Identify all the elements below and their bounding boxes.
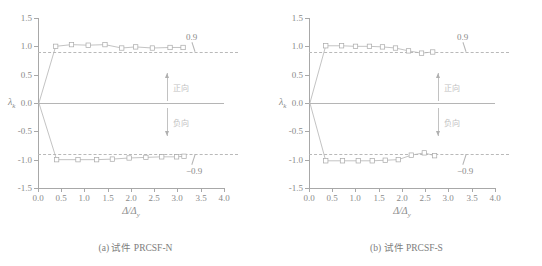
x-tick-a-5 — [154, 188, 155, 192]
panel-caption-a: (a) 试件 PRCSF-N — [0, 240, 271, 254]
data-point-marker — [383, 158, 387, 162]
annotation-label-positive-b: 正向 — [444, 82, 460, 93]
annotation-label-negative-b: 负向 — [444, 117, 460, 128]
y-tick-label-a-0: 1.5 — [21, 14, 32, 23]
data-point-marker — [86, 43, 90, 47]
data-point-marker — [144, 155, 148, 159]
x-tick-b-2 — [355, 188, 356, 192]
x-tick-b-3 — [379, 188, 380, 192]
data-point-marker — [432, 154, 436, 158]
x-tick-label-a-3: 1.5 — [102, 194, 113, 203]
x-tick-a-4 — [131, 188, 132, 192]
x-tick-b-4 — [402, 188, 403, 192]
x-tick-label-a-1: 0.5 — [55, 194, 66, 203]
x-tick-label-b-8: 4.0 — [489, 194, 500, 203]
x-tick-a-6 — [177, 188, 178, 192]
data-point-marker — [182, 154, 186, 158]
data-point-marker — [409, 153, 413, 157]
x-tick-b-5 — [425, 188, 426, 192]
y-axis-title-b: λk — [279, 96, 286, 110]
x-tick-a-0 — [38, 188, 39, 192]
y-tick-label-a-2: 0.5 — [21, 71, 32, 80]
data-point-marker — [380, 45, 384, 49]
panel-b: 1.5 1.0 0.5 0.0 -0.5 -1.0 -1.5 0.0 0.5 1… — [271, 0, 542, 266]
x-tick-a-2 — [84, 188, 85, 192]
annotation-positive-direction-a: 正向 — [164, 73, 189, 101]
x-tick-label-a-4: 2.0 — [125, 194, 136, 203]
panel-a: 1.5 1.0 0.5 0.0 -0.5 -1.0 -1.5 0.0 0.5 1… — [0, 0, 271, 266]
x-tick-label-b-6: 3.0 — [442, 194, 453, 203]
x-tick-a-7 — [201, 188, 202, 192]
data-point-marker — [54, 157, 58, 161]
data-point-marker — [339, 44, 343, 48]
data-point-marker — [120, 46, 124, 50]
data-point-marker — [406, 49, 410, 53]
ref-label-positive-b: 0.9 — [457, 32, 468, 42]
x-tick-label-a-5: 2.5 — [148, 194, 159, 203]
ref-label-negative-a: −0.9 — [186, 166, 202, 176]
data-point-marker — [174, 155, 178, 159]
annotation-label-positive-a: 正向 — [173, 82, 189, 93]
series-canvas-b — [309, 18, 509, 188]
y-tick-label-b-4: -0.5 — [289, 127, 303, 136]
x-tick-a-8 — [224, 188, 225, 192]
ref-label-negative-b: −0.9 — [457, 166, 473, 176]
data-point-marker — [110, 157, 114, 161]
data-point-marker — [324, 44, 328, 48]
annotation-negative-direction-b: 负向 — [435, 108, 460, 136]
annotation-negative-direction-a: 负向 — [164, 108, 189, 136]
data-point-marker — [430, 50, 434, 54]
y-tick-label-b-5: -1.0 — [289, 156, 303, 165]
data-point-marker — [150, 46, 154, 50]
x-tick-label-a-7: 3.5 — [195, 194, 206, 203]
data-point-marker — [133, 45, 137, 49]
x-tick-b-0 — [309, 188, 310, 192]
y-tick-label-b-2: 0.5 — [292, 71, 303, 80]
x-tick-label-a-0: 0.0 — [32, 194, 43, 203]
data-point-marker — [159, 155, 163, 159]
y-tick-label-b-0: 1.5 — [292, 14, 303, 23]
x-tick-b-1 — [332, 188, 333, 192]
data-point-marker — [340, 159, 344, 163]
x-tick-b-6 — [448, 188, 449, 192]
x-tick-a-1 — [61, 188, 62, 192]
x-tick-label-b-7: 3.5 — [466, 194, 477, 203]
y-tick-label-a-5: -1.0 — [18, 156, 32, 165]
x-tick-label-b-1: 0.5 — [326, 194, 337, 203]
series-line-negative — [310, 103, 435, 161]
x-tick-label-b-3: 1.5 — [373, 194, 384, 203]
y-tick-label-a-6: -1.5 — [18, 184, 32, 193]
ref-label-positive-a: 0.9 — [186, 32, 197, 42]
data-point-marker — [181, 45, 185, 49]
y-tick-label-b-3: 0.0 — [292, 99, 303, 108]
series-canvas-a — [38, 18, 238, 188]
data-point-marker — [393, 46, 397, 50]
data-point-marker — [356, 159, 360, 163]
y-tick-label-a-1: 1.0 — [21, 42, 32, 51]
x-tick-label-a-8: 4.0 — [218, 194, 229, 203]
series-line-positive — [39, 45, 183, 103]
data-point-marker — [69, 42, 73, 46]
data-point-marker — [396, 157, 400, 161]
x-tick-b-7 — [472, 188, 473, 192]
x-tick-a-3 — [108, 188, 109, 192]
data-point-marker — [324, 159, 328, 163]
y-tick-label-a-3: 0.0 — [21, 99, 32, 108]
data-point-marker — [127, 156, 131, 160]
series-line-positive — [310, 46, 433, 103]
x-axis-title-a: Δ/Δy — [122, 205, 140, 219]
x-tick-label-a-6: 3.0 — [171, 194, 182, 203]
x-tick-label-b-0: 0.0 — [303, 194, 314, 203]
y-tick-label-b-1: 1.0 — [292, 42, 303, 51]
x-tick-label-a-2: 1.0 — [78, 194, 89, 203]
data-point-marker — [367, 44, 371, 48]
plot-area-b: 1.5 1.0 0.5 0.0 -0.5 -1.0 -1.5 0.0 0.5 1… — [309, 18, 495, 188]
x-tick-b-8 — [495, 188, 496, 192]
x-tick-label-b-2: 1.0 — [349, 194, 360, 203]
y-axis-title-a: λk — [8, 96, 15, 110]
annotation-label-negative-a: 负向 — [173, 117, 189, 128]
y-tick-label-b-6: -1.5 — [289, 184, 303, 193]
arrow-up-icon — [164, 73, 171, 101]
x-tick-label-b-5: 2.5 — [419, 194, 430, 203]
x-axis-title-b: Δ/Δy — [393, 205, 411, 219]
